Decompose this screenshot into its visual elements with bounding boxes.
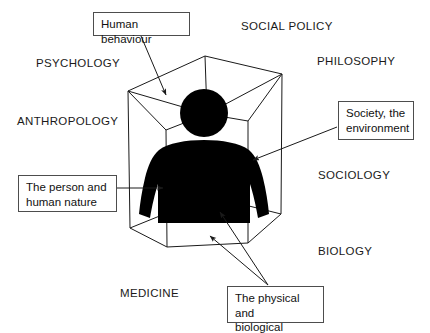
callout-person-human-nature: The person and human nature [18, 175, 117, 212]
discipline-label-anthropology: ANTHROPOLOGY [17, 115, 118, 128]
cube-top-inner-right [248, 74, 282, 121]
discipline-label-sociology: SOCIOLOGY [318, 169, 390, 182]
cube-edge-right-outer [281, 74, 282, 214]
diagram-canvas: PSYCHOLOGY SOCIAL POLICY PHILOSOPHY ANTH… [0, 0, 430, 333]
cube-bottom-right-back [248, 214, 281, 243]
discipline-label-philosophy: PHILOSOPHY [317, 55, 395, 68]
person-torso [139, 140, 269, 223]
cube-bottom-left-back [130, 228, 167, 247]
person-silhouette-icon [139, 89, 269, 223]
diagram-graphics [0, 0, 430, 333]
discipline-label-psychology: PSYCHOLOGY [36, 57, 120, 70]
callout-physical-biological-person: The physical and biological person [227, 286, 324, 323]
arrow-society-environment [253, 127, 337, 160]
cube-edge-left-outer [128, 91, 130, 228]
discipline-label-social-policy: SOCIAL POLICY [241, 20, 333, 33]
callout-society-environment: Society, the environment [338, 101, 414, 140]
person-head [180, 89, 228, 137]
discipline-label-biology: BIOLOGY [318, 245, 372, 258]
discipline-label-medicine: MEDICINE [120, 287, 179, 300]
callout-human-behaviour: Human behaviour [93, 12, 190, 36]
cube-bottom-front [167, 243, 248, 247]
